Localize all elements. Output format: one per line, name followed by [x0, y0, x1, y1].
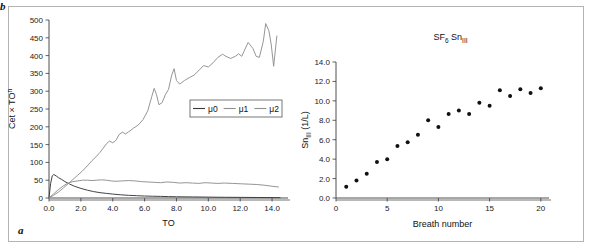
- panel-a-letter: a: [18, 224, 24, 236]
- panel-a-ytick: 300: [30, 87, 44, 96]
- panel-a-xtick: 14.0: [264, 204, 280, 213]
- panel-b-title: SF6 SnIII: [433, 32, 467, 44]
- data-point: [488, 104, 492, 108]
- data-point: [457, 109, 461, 113]
- panel-a-xtick: 2.0: [75, 204, 87, 213]
- panel-a-ytick: 400: [30, 52, 44, 61]
- panel-b-ytick: 8.0: [319, 116, 331, 125]
- data-point: [426, 118, 430, 122]
- data-point: [385, 157, 389, 161]
- panel-b-ytick: 14.0: [314, 58, 330, 67]
- data-point: [416, 133, 420, 137]
- legend-label-μ1: μ1: [239, 104, 249, 114]
- panel-a-xlabel: TO: [162, 218, 174, 228]
- panel-b-ytick: 6.0: [319, 136, 331, 145]
- data-point: [508, 94, 512, 98]
- panel-b-letter: b: [0, 0, 6, 12]
- legend-label-μ0: μ0: [208, 104, 218, 114]
- data-point: [344, 185, 348, 189]
- data-point: [354, 179, 358, 183]
- panel-a-ytick: 150: [30, 141, 44, 150]
- panel-b-xtick: 10: [434, 204, 443, 213]
- panel-b-xtick: 15: [485, 204, 494, 213]
- panel-a-series-μ0: [49, 175, 280, 199]
- panel-a-xtick: 4.0: [107, 204, 119, 213]
- panel-b-ylabel: SnIII (1/L): [300, 111, 312, 148]
- panel-a-ytick: 50: [34, 176, 43, 185]
- panel-b-xtick: 0: [334, 204, 339, 213]
- panel-a-xtick: 12.0: [232, 204, 248, 213]
- panel-b-ytick: 0.0: [319, 194, 331, 203]
- data-point: [498, 88, 502, 92]
- data-point: [447, 112, 451, 116]
- panel-a-xtick: 6.0: [139, 204, 151, 213]
- data-point: [375, 160, 379, 164]
- data-point: [395, 144, 399, 148]
- data-point: [539, 86, 543, 90]
- data-point: [467, 112, 471, 116]
- panel-a-xtick: 8.0: [171, 204, 183, 213]
- panel-a-ytick: 0: [39, 194, 44, 203]
- panel-b-ytick: 10.0: [314, 97, 330, 106]
- panel-a-ytick: 200: [30, 123, 44, 132]
- legend-label-μ2: μ2: [269, 104, 279, 114]
- panel-b-ytick: 2.0: [319, 175, 331, 184]
- panel-b-xlabel: Breath number: [413, 219, 473, 229]
- panel-b-xtick: 20: [536, 204, 545, 213]
- data-point: [477, 101, 481, 105]
- panel-b-plot: 0.02.04.06.08.010.012.014.005101520Breat…: [296, 0, 592, 250]
- data-point: [406, 140, 410, 144]
- panel-a-ytick: 450: [30, 34, 44, 43]
- panel-a-ytick: 100: [30, 158, 44, 167]
- panel-b-xtick: 5: [385, 204, 390, 213]
- panel-b-ytick: 4.0: [319, 155, 331, 164]
- panel-a-ylabel: Cet × TOn: [6, 89, 17, 129]
- data-point: [436, 125, 440, 129]
- panel-a: 0501001502002503003504004505000.02.04.06…: [0, 0, 296, 250]
- panel-b: 0.02.04.06.08.010.012.014.005101520Breat…: [296, 0, 592, 250]
- panel-a-ytick: 350: [30, 69, 44, 78]
- panel-a-ytick: 250: [30, 105, 44, 114]
- data-point: [365, 172, 369, 176]
- panel-a-xtick: 10.0: [201, 204, 217, 213]
- panel-b-ytick: 12.0: [314, 77, 330, 86]
- figure-container: 0501001502002503003504004505000.02.04.06…: [0, 0, 592, 250]
- panel-a-ytick: 500: [30, 16, 44, 25]
- panel-a-xtick: 0.0: [43, 204, 55, 213]
- panel-a-plot: 0501001502002503003504004505000.02.04.06…: [0, 0, 296, 250]
- data-point: [529, 91, 533, 95]
- data-point: [518, 87, 522, 91]
